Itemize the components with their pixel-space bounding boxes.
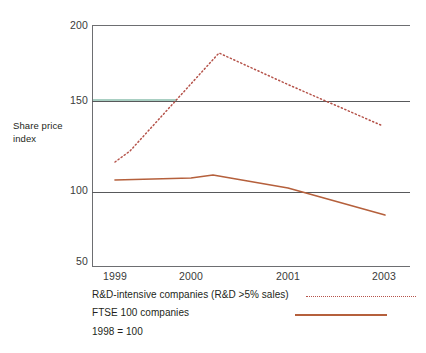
- x-tick-2001: 2001: [276, 270, 300, 282]
- y-tick-200: 200: [54, 19, 88, 31]
- legend-label-rd-intensive: R&D-intensive companies (R&D >5% sales): [92, 289, 289, 300]
- chart-legend: R&D-intensive companies (R&D >5% sales) …: [92, 288, 422, 342]
- x-tick-2003: 2003: [372, 270, 396, 282]
- legend-swatch-dotted-icon: [306, 296, 416, 297]
- series-layer: [92, 25, 410, 267]
- series-rd-intensive-line: [115, 53, 383, 162]
- legend-note-baseline: 1998 = 100: [92, 326, 143, 337]
- legend-swatch-solid-icon: [295, 314, 387, 316]
- legend-label-ftse100: FTSE 100 companies: [92, 307, 189, 318]
- y-tick-50: 50: [54, 255, 88, 267]
- y-tick-100: 100: [54, 184, 88, 196]
- x-axis-ticks: 1999 2000 2001 2003: [92, 270, 422, 286]
- x-tick-2000: 2000: [179, 270, 203, 282]
- plot-area: [92, 25, 410, 267]
- series-ftse100-line: [115, 175, 385, 215]
- y-tick-150: 150: [54, 94, 88, 106]
- x-tick-1999: 1999: [103, 270, 127, 282]
- chart-figure: Share price index 200 150 100 50 1999 20…: [0, 0, 426, 353]
- legend-note-row: 1998 = 100: [92, 324, 422, 342]
- legend-entry-ftse100: FTSE 100 companies: [92, 306, 422, 324]
- y-axis-ticks: 200 150 100 50: [52, 0, 88, 290]
- legend-entry-rd-intensive: R&D-intensive companies (R&D >5% sales): [92, 288, 422, 306]
